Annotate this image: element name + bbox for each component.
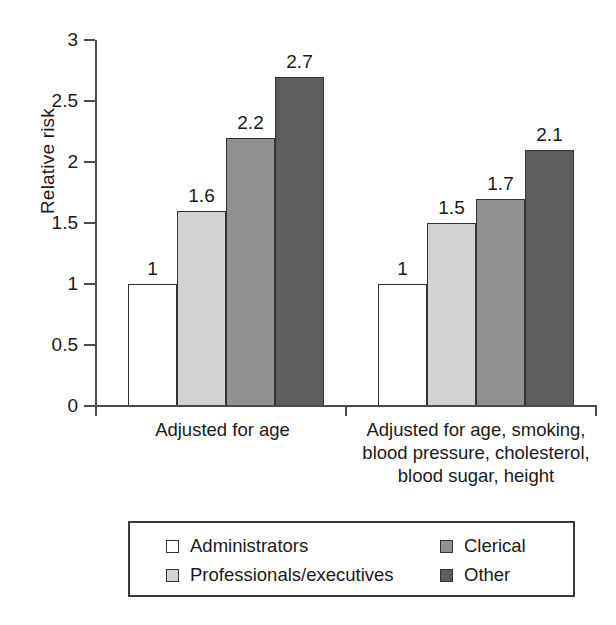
bar-group-0-series-2: [226, 138, 275, 406]
legend-item-label: Other: [464, 566, 510, 585]
y-axis-tick-label-2: 2: [20, 152, 78, 171]
bar-group-0-series-3: [275, 77, 324, 406]
legend-item-label: Administrators: [190, 537, 308, 556]
y-axis-tick-0.5: [84, 344, 95, 346]
x-axis-tick-start: [95, 405, 97, 416]
y-axis-tick-2: [84, 161, 95, 163]
x-axis-tick-end: [595, 405, 597, 416]
legend-swatch-icon: [166, 569, 179, 582]
y-axis-tick-label-0: 0: [20, 396, 78, 415]
plot-area: 11.62.22.711.51.72.1: [96, 40, 597, 406]
legend-swatch-icon: [166, 540, 179, 553]
bar-group-1-series-1: [427, 223, 476, 406]
y-axis-tick-label-1.5: 1.5: [20, 213, 78, 232]
x-axis-group-label-0: Adjusted for age: [110, 418, 335, 441]
x-axis-group-label-1: Adjusted for age, smoking, blood pressur…: [352, 418, 600, 487]
y-axis-tick-2.5: [84, 100, 95, 102]
legend-item-label: Professionals/executives: [190, 566, 394, 585]
bar-group-1-series-2: [476, 199, 525, 406]
x-axis-tick-group-separator: [345, 405, 347, 416]
y-axis-tick-1: [84, 283, 95, 285]
bar-group-1-series-0: [378, 284, 427, 406]
y-axis-tick-label-3: 3: [20, 30, 78, 49]
legend-swatch-icon: [440, 569, 453, 582]
y-axis-tick-label-2.5: 2.5: [20, 91, 78, 110]
relative-risk-bar-chart: Relative risk 00.511.522.53 11.62.22.711…: [0, 0, 616, 625]
legend: AdministratorsProfessionals/executivesCl…: [128, 521, 575, 597]
bar-group-0-series-0: [128, 284, 177, 406]
y-axis-tick-3: [84, 39, 95, 41]
bar-value-label-1-3: 2.1: [511, 125, 588, 144]
legend-swatch-icon: [440, 540, 453, 553]
legend-item-clerical[interactable]: Clerical: [440, 537, 526, 556]
bar-value-label-0-3: 2.7: [261, 52, 338, 71]
bar-group-0-series-1: [177, 211, 226, 406]
y-axis-tick-label-0.5: 0.5: [20, 335, 78, 354]
y-axis-tick-1.5: [84, 222, 95, 224]
legend-item-label: Clerical: [464, 537, 526, 556]
legend-item-other[interactable]: Other: [440, 566, 510, 585]
legend-item-professionals-executives[interactable]: Professionals/executives: [166, 566, 394, 585]
legend-item-administrators[interactable]: Administrators: [166, 537, 308, 556]
y-axis-tick-label-1: 1: [20, 274, 78, 293]
y-axis-tick-0: [84, 405, 95, 407]
bar-group-1-series-3: [525, 150, 574, 406]
